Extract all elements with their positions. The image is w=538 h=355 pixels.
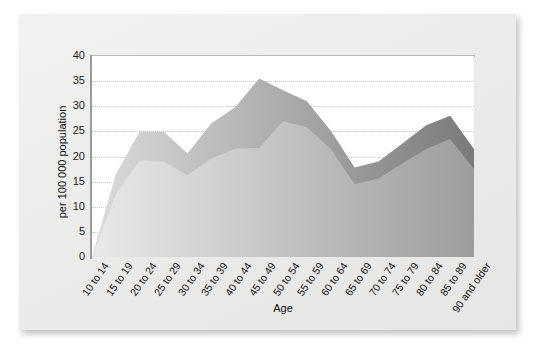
y-tick-label: 20 bbox=[45, 150, 85, 162]
x-axis-title: Age bbox=[92, 302, 474, 314]
y-tick-label: 0 bbox=[45, 250, 85, 262]
y-tick-label: 5 bbox=[45, 225, 85, 237]
plot-area bbox=[92, 56, 474, 257]
y-tick-label: 30 bbox=[45, 99, 85, 111]
x-axis-ticks: 10 to 1415 to 1920 to 2425 to 2930 to 34… bbox=[92, 260, 474, 330]
figure-root: per 100 000 population 0510152025303540 bbox=[0, 0, 538, 355]
chart-card: per 100 000 population 0510152025303540 bbox=[19, 14, 516, 330]
y-tick-label: 40 bbox=[45, 49, 85, 61]
y-tick-label: 25 bbox=[45, 124, 85, 136]
y-axis-ticks: 0510152025303540 bbox=[41, 56, 85, 257]
y-tick-label: 35 bbox=[45, 74, 85, 86]
y-tick-label: 15 bbox=[45, 175, 85, 187]
stacked-area-plot bbox=[92, 56, 474, 257]
y-tick-label: 10 bbox=[45, 200, 85, 212]
